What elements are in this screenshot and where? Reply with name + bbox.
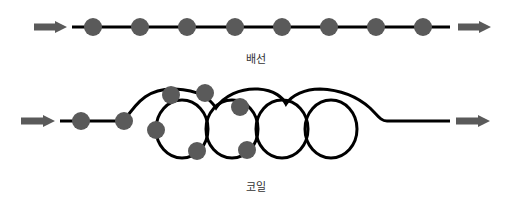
output-arrow-icon <box>458 21 491 33</box>
charge-dot <box>72 112 90 130</box>
charge-dot <box>196 84 214 102</box>
charge-dot <box>273 18 291 36</box>
coil-loop <box>305 100 357 158</box>
charge-dot <box>226 18 244 36</box>
charge-dot <box>414 18 432 36</box>
coil-label: 코일 <box>246 178 266 194</box>
wire-vs-coil-diagram <box>0 0 512 206</box>
straight-wire-diagram <box>34 18 491 36</box>
coil-loop <box>256 100 308 158</box>
coil-diagram <box>21 84 490 160</box>
charge-dot <box>84 18 102 36</box>
charge-dot <box>238 141 256 159</box>
input-arrow-icon <box>21 115 55 127</box>
input-arrow-icon <box>34 21 67 33</box>
straight-wire-label: 배선 <box>246 50 266 66</box>
charge-dot <box>367 18 385 36</box>
charge-dot <box>178 18 196 36</box>
charge-dot <box>320 18 338 36</box>
charge-dot <box>131 18 149 36</box>
charge-dot <box>147 121 165 139</box>
charge-dot <box>188 142 206 160</box>
charge-dot <box>231 98 249 116</box>
output-arrow-icon <box>456 115 490 127</box>
charge-dot <box>115 112 133 130</box>
charge-dot <box>162 86 180 104</box>
